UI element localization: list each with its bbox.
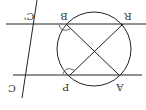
geometry-diagram: R B C' C P A <box>0 0 146 110</box>
label-a: A <box>116 82 125 93</box>
chord-r-p <box>70 24 123 75</box>
label-r: R <box>124 11 132 22</box>
chord-b-a <box>66 24 119 75</box>
diagram-canvas: R B C' C P A <box>0 0 146 110</box>
label-c-prime: C' <box>24 11 34 22</box>
label-b: B <box>60 11 67 22</box>
label-p: P <box>62 82 69 93</box>
label-c: C <box>8 83 16 94</box>
